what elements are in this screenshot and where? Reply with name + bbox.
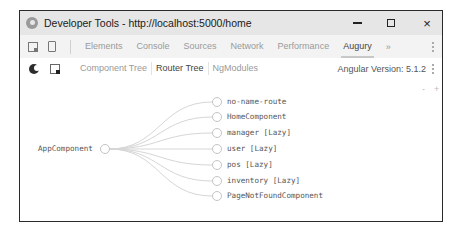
route-node-label[interactable]: HomeComponent	[227, 112, 286, 122]
tree-node[interactable]	[213, 145, 222, 154]
route-node-label[interactable]: inventory [Lazy]	[227, 176, 300, 186]
divider	[70, 40, 71, 54]
more-tabs-button[interactable]: »	[386, 42, 391, 52]
chrome-icon	[26, 17, 38, 29]
tab-performance[interactable]: Performance	[278, 35, 330, 58]
title-bar: Developer Tools - http://localhost:5000/…	[20, 11, 442, 35]
tree-node[interactable]	[213, 98, 222, 107]
tab-console[interactable]: Console	[137, 35, 170, 58]
theme-toggle-icon[interactable]	[29, 64, 39, 74]
devtools-window: Developer Tools - http://localhost:5000/…	[19, 10, 443, 222]
tree-node[interactable]	[213, 161, 222, 170]
minimize-icon	[353, 22, 362, 24]
tree-node-root[interactable]	[101, 145, 110, 154]
tab-component-tree[interactable]: Component Tree	[76, 62, 152, 75]
tab-ngmodules[interactable]: NgModules	[209, 62, 263, 75]
minimize-button[interactable]	[342, 11, 372, 35]
maximize-icon	[387, 19, 395, 27]
tree-node[interactable]	[213, 129, 222, 138]
tree-node[interactable]	[213, 192, 222, 201]
tab-sources[interactable]: Sources	[184, 35, 217, 58]
close-button[interactable]: ×	[412, 11, 442, 35]
tab-elements[interactable]: Elements	[85, 35, 123, 58]
maximize-button[interactable]	[376, 11, 406, 35]
route-node-label[interactable]: manager [Lazy]	[227, 128, 291, 138]
route-node-label[interactable]: no-name-route	[227, 97, 286, 107]
inspect-element-icon[interactable]	[28, 42, 38, 52]
tree-node[interactable]	[213, 113, 222, 122]
devtools-menu-icon[interactable]	[432, 41, 434, 53]
route-node-label[interactable]: pos [Lazy]	[227, 160, 273, 170]
route-node-label[interactable]: PageNotFoundComponent	[227, 191, 323, 201]
augury-inspect-icon[interactable]	[50, 64, 60, 74]
tree-links	[109, 102, 212, 196]
angular-version: Angular Version: 5.1.2	[337, 64, 426, 74]
router-tree-panel: - + AppComponent	[20, 79, 442, 221]
augury-toolbar: Component Tree Router Tree NgModules Ang…	[20, 58, 442, 80]
close-icon: ×	[423, 16, 431, 31]
tab-augury[interactable]: Augury	[343, 35, 372, 58]
root-node-label[interactable]: AppComponent	[38, 144, 93, 154]
devtools-tab-bar: Elements Console Sources Network Perform…	[20, 35, 442, 59]
route-node-label[interactable]: user [Lazy]	[227, 144, 277, 154]
augury-menu-icon[interactable]	[432, 63, 434, 75]
window-title: Developer Tools - http://localhost:5000/…	[44, 17, 252, 29]
device-toggle-icon[interactable]	[48, 41, 56, 52]
tab-router-tree[interactable]: Router Tree	[152, 62, 209, 75]
tab-network[interactable]: Network	[231, 35, 264, 58]
tree-node[interactable]	[213, 177, 222, 186]
